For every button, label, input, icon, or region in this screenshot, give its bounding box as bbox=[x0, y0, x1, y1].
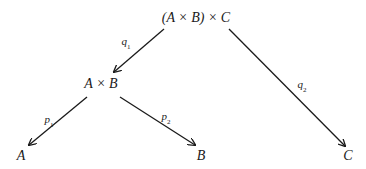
label-p2: p2 bbox=[162, 110, 171, 125]
label-q2: q2 bbox=[298, 78, 307, 93]
arrow-p1 bbox=[29, 97, 87, 145]
label-p1: p1 bbox=[45, 113, 54, 128]
node-c: C bbox=[343, 148, 352, 164]
node-a: A bbox=[17, 148, 26, 164]
node-b: B bbox=[197, 148, 206, 164]
label-q1: q1 bbox=[122, 35, 131, 50]
arrow-p2 bbox=[120, 97, 195, 145]
node-product-ab: A × B bbox=[84, 76, 117, 92]
arrow-q2 bbox=[229, 29, 345, 146]
node-product-abc: (A × B) × C bbox=[162, 10, 230, 26]
